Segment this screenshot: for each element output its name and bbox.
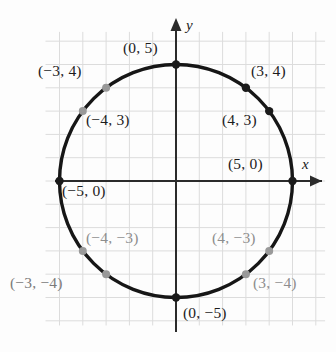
point-label: (4, −3) bbox=[212, 230, 256, 246]
point-label: (3, 4) bbox=[251, 63, 286, 79]
point-label: (5, 0) bbox=[228, 156, 263, 172]
data-point-marker bbox=[102, 84, 110, 92]
data-point-marker bbox=[172, 293, 180, 301]
data-point-marker bbox=[242, 270, 250, 278]
x-axis-label: x bbox=[302, 157, 309, 172]
point-label: (−3, −4) bbox=[10, 275, 63, 291]
y-axis-label: y bbox=[186, 18, 193, 33]
data-point-marker bbox=[242, 84, 250, 92]
coordinate-plane-svg bbox=[0, 0, 336, 352]
circle-coordinate-figure: (0, 5)(3, 4)(4, 3)(5, 0)(4, −3)(3, −4)(0… bbox=[0, 0, 336, 352]
data-point-marker bbox=[265, 247, 273, 255]
y-axis-arrowhead bbox=[171, 18, 182, 31]
data-point-marker bbox=[172, 60, 180, 68]
point-label: (0, 5) bbox=[123, 40, 158, 56]
data-point-marker bbox=[288, 177, 296, 185]
point-label: (4, 3) bbox=[222, 112, 257, 128]
data-point-marker bbox=[79, 247, 87, 255]
point-label: (−4, 3) bbox=[86, 112, 130, 128]
point-label: (−3, 4) bbox=[38, 63, 82, 79]
point-label: (3, −4) bbox=[253, 275, 297, 291]
point-label: (0, −5) bbox=[183, 305, 227, 321]
data-point-marker bbox=[102, 270, 110, 278]
point-label: (−5, 0) bbox=[62, 183, 106, 199]
data-point-marker bbox=[265, 107, 273, 115]
point-label: (−4, −3) bbox=[86, 230, 139, 246]
